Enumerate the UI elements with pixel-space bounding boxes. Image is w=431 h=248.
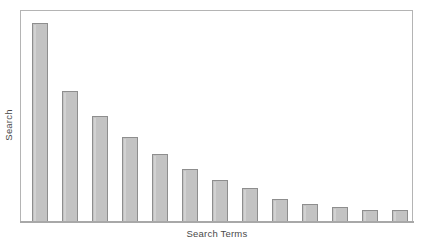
bar	[122, 137, 138, 222]
bar	[92, 116, 108, 222]
bar	[32, 23, 48, 222]
bar	[212, 180, 228, 222]
bar	[152, 154, 168, 222]
bar	[62, 91, 78, 222]
bar	[182, 169, 198, 222]
bar-chart: Search Search Terms	[0, 0, 431, 248]
y-axis-title: Search	[0, 19, 18, 231]
bar	[302, 204, 318, 222]
x-axis-line	[20, 221, 414, 223]
bar	[242, 188, 258, 222]
bar	[332, 207, 348, 222]
bars-layer	[0, 0, 431, 248]
bar	[272, 199, 288, 222]
x-axis-title: Search Terms	[20, 228, 414, 239]
